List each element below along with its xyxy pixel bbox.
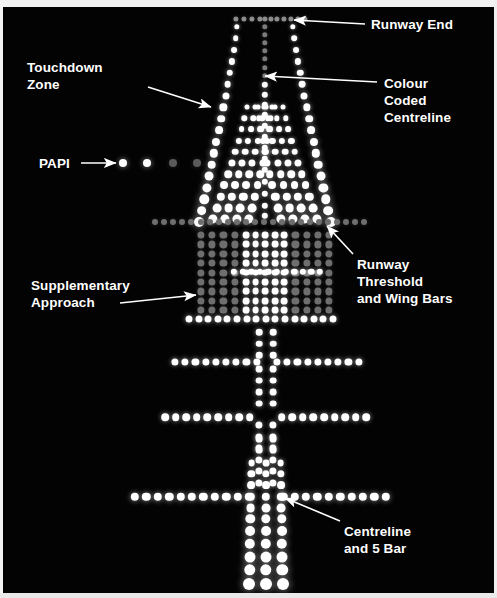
label-line: and Wing Bars — [357, 290, 453, 307]
figure-root: Runway EndTouchdownZoneColourCodedCentre… — [0, 0, 497, 598]
arrow-touchdown-zone — [148, 87, 211, 107]
label-line: Centreline — [384, 109, 451, 126]
arrow-colour-centreline — [265, 76, 377, 82]
label-line: Approach — [31, 294, 130, 311]
annotation-layer: Runway EndTouchdownZoneColourCodedCentre… — [3, 7, 494, 593]
label-colour-coded-centreline: ColourCodedCentreline — [384, 75, 451, 126]
label-line: Threshold — [357, 273, 453, 290]
label-line: Runway — [357, 256, 453, 273]
label-line: PAPI — [39, 155, 70, 172]
label-runway-threshold-and-wing-bars: RunwayThresholdand Wing Bars — [357, 256, 453, 307]
label-line: Supplementary — [31, 277, 130, 294]
label-papi: PAPI — [39, 155, 70, 172]
photo-edge-bottom — [0, 593, 497, 598]
label-line: Colour — [384, 75, 451, 92]
label-line: Runway End — [371, 16, 453, 33]
label-line: Coded — [384, 92, 451, 109]
arrow-threshold — [327, 226, 353, 254]
arrow-supplementary — [120, 295, 196, 303]
label-line: and 5 Bar — [344, 540, 411, 557]
label-line: Centreline — [344, 523, 411, 540]
label-line: Touchdown — [27, 59, 103, 76]
label-centreline-and-5-bar: Centrelineand 5 Bar — [344, 523, 411, 557]
label-line: Zone — [27, 76, 103, 93]
arrow-runway-end — [294, 20, 365, 24]
night-photo-plate: Runway EndTouchdownZoneColourCodedCentre… — [3, 7, 494, 593]
label-supplementary-approach: SupplementaryApproach — [31, 277, 130, 311]
arrow-centreline-5bar — [285, 498, 340, 521]
label-touchdown-zone: TouchdownZone — [27, 59, 103, 93]
photo-edge-top — [0, 0, 497, 7]
label-runway-end: Runway End — [371, 16, 453, 33]
